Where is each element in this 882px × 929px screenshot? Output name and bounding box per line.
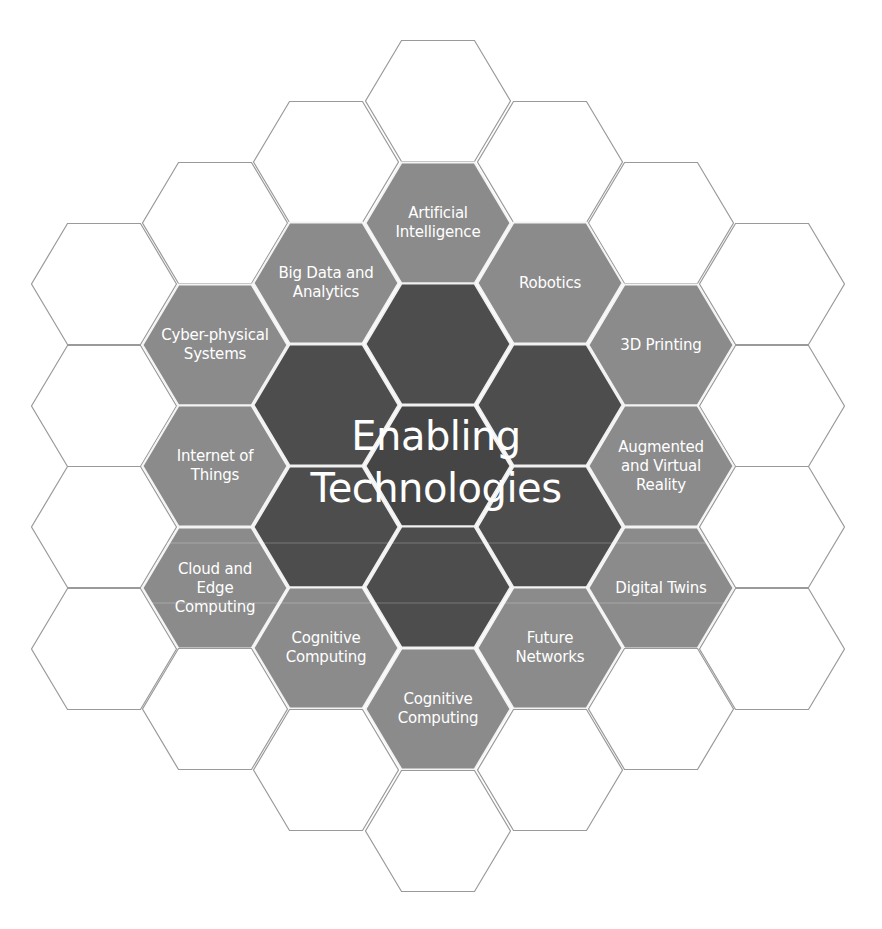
empty-hex (365, 770, 511, 892)
hex-cognitive-computing-bottom: Cognitive Computing (365, 648, 511, 770)
hex-artificial-intelligence: Artificial Intelligence (365, 162, 511, 284)
core-hex (365, 526, 511, 648)
scan-artifact-line (150, 542, 730, 544)
enabling-technologies-hex-diagram: Cyber-physical Systems Internet of Thing… (0, 0, 882, 929)
label-cognitive-computing-bottom: Cognitive Computing (371, 648, 505, 770)
label-artificial-intelligence: Artificial Intelligence (371, 162, 505, 284)
scan-artifact-line (150, 602, 730, 604)
core-hex (365, 283, 511, 405)
empty-hex (365, 40, 511, 162)
core-hex-center (365, 405, 511, 527)
